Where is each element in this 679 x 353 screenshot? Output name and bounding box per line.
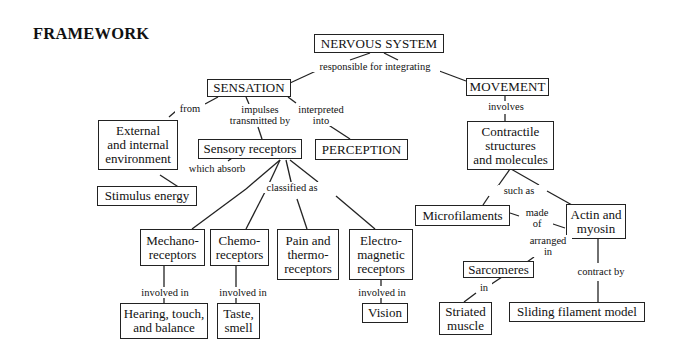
node-mechanoreceptors: Mechano- receptors [140, 229, 205, 266]
node-sensation: SENSATION [207, 79, 291, 97]
node-pain-thermoreceptors: Pain and thermo- receptors [277, 229, 339, 280]
link-contract-by: contract by [572, 266, 630, 277]
node-perception: PERCEPTION [315, 139, 408, 160]
link-which-absorb: which absorb [183, 163, 251, 174]
node-microfilaments: Microfilaments [415, 205, 510, 226]
node-stimulus-energy: Stimulus energy [97, 186, 197, 206]
node-chemoreceptors: Chemo- receptors [210, 229, 269, 266]
node-vision: Vision [362, 303, 408, 323]
link-involved-in-mechano: involved in [136, 287, 194, 298]
node-taste-smell: Taste, smell [217, 303, 260, 339]
link-responsible-for-integrating: responsible for integrating [310, 61, 440, 72]
link-in: in [476, 282, 492, 293]
node-nervous-system: NERVOUS SYSTEM [314, 34, 444, 53]
link-such-as: such as [498, 185, 540, 196]
link-arranged-in: arranged in [524, 235, 572, 257]
diagram-title: FRAMEWORK [33, 24, 149, 44]
node-actin-myosin: Actin and myosin [566, 204, 626, 239]
node-movement: MOVEMENT [466, 78, 549, 96]
link-interpreted-into: interpreted into [294, 104, 348, 126]
link-from: from [175, 103, 205, 114]
link-impulses-transmitted-by: impulses transmitted by [225, 104, 295, 126]
node-sarcomeres: Sarcomeres [463, 261, 534, 278]
node-sensory-receptors: Sensory receptors [198, 139, 302, 159]
link-involves: involves [480, 101, 532, 112]
node-striated-muscle: Striated muscle [439, 302, 492, 335]
link-made-of: made of [521, 207, 553, 229]
link-involved-in-electro: involved in [353, 287, 411, 298]
link-involved-in-chemo: involved in [214, 287, 272, 298]
node-electromagnetic-receptors: Electro- magnetic receptors [349, 229, 413, 280]
node-contractile-structures: Contractile structures and molecules [467, 121, 554, 170]
node-environment: External and internal environment [98, 120, 178, 170]
node-sliding-filament-model: Sliding filament model [509, 302, 645, 322]
concept-map: FRAMEWORK NERVOUS SYSTEM SENSATION MOVEM… [0, 0, 679, 353]
link-classified-as: classified as [255, 182, 329, 193]
node-hearing-touch-balance: Hearing, touch, and balance [120, 303, 208, 339]
